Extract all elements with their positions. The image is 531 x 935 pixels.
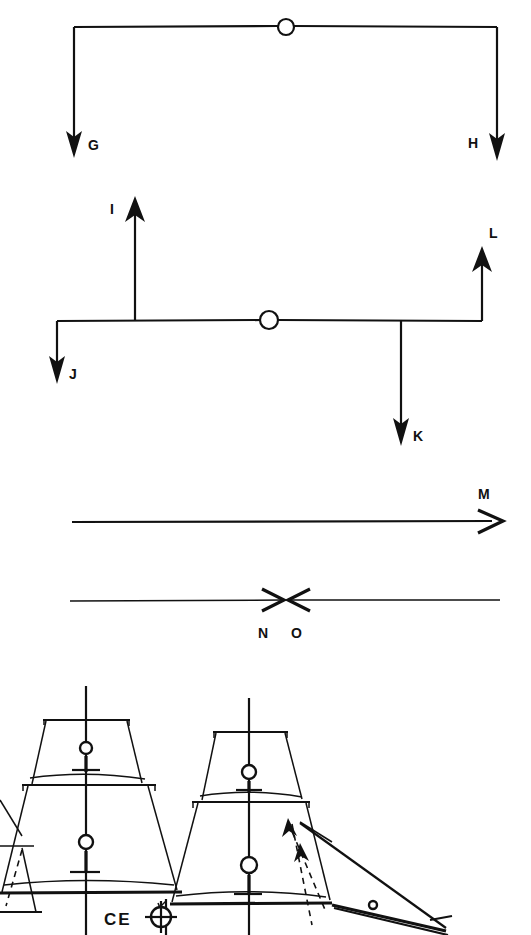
- ship-sail-plan: CE: [0, 686, 452, 935]
- label-l: L: [489, 225, 498, 241]
- label-g: G: [88, 137, 99, 153]
- foremast-sail-foot-upper: [200, 792, 302, 797]
- headsails-and-bowsprit: [282, 818, 452, 935]
- left-sail-edge-b: [22, 848, 36, 912]
- bowsprit: [332, 905, 446, 931]
- jib-leech: [300, 823, 446, 928]
- ce-label: CE: [104, 910, 132, 929]
- mainmast-hoop-upper: [80, 742, 92, 754]
- staysail-luff-arrow-a: [282, 818, 297, 837]
- mainmast-sail-upper-right: [127, 721, 142, 783]
- gh-beam-left: [74, 26, 278, 27]
- headsail-marker-circle: [369, 901, 377, 909]
- staysail-luff-dashed-inner: [292, 824, 312, 925]
- label-j: J: [69, 366, 77, 382]
- mainmast-sail-foot-upper: [30, 774, 145, 779]
- diagram-no: N O: [70, 589, 500, 641]
- diagram-m: M: [72, 486, 503, 533]
- label-h: H: [468, 135, 478, 151]
- label-k: K: [413, 428, 423, 444]
- foremast-sail-lower-left: [172, 803, 198, 902]
- mainmast-sail-upper-left: [32, 721, 46, 784]
- bowsprit-under: [334, 908, 448, 935]
- figure-canvas: G H I J K: [0, 0, 531, 935]
- left-sail-dash: [6, 850, 22, 906]
- ijkl-beam-left: [57, 320, 261, 321]
- ijkl-beam-right: [278, 320, 482, 321]
- ijkl-pivot-circle: [260, 311, 278, 329]
- figure-root: G H I J K: [0, 0, 531, 935]
- no-line-left: [70, 600, 283, 601]
- gh-pivot-circle: [278, 19, 294, 35]
- label-i: I: [110, 201, 114, 217]
- mainmast-yard-lower: [0, 892, 182, 893]
- label-o: O: [291, 625, 302, 641]
- mainmast-hoop-lower: [79, 835, 93, 849]
- foremast-sail-upper-right: [285, 733, 302, 799]
- jib-stay-upper: [300, 822, 332, 842]
- foremast-hoop-upper: [242, 765, 256, 779]
- diagram-gh: G H: [66, 19, 505, 161]
- label-n: N: [258, 625, 268, 641]
- label-m: M: [478, 486, 490, 502]
- left-sail-edge-a: [0, 800, 22, 836]
- mainmast-sail-lower-right: [148, 786, 177, 890]
- diagram-ijkl: I J K L: [49, 196, 498, 446]
- foremast-sail-lower-right: [306, 803, 330, 900]
- mast-mainmast: [0, 686, 182, 935]
- gh-beam-right: [294, 26, 497, 27]
- foremast-sail-upper-left: [202, 733, 216, 800]
- foremast-hoop-lower: [241, 857, 257, 873]
- m-arrow-shaft: [72, 521, 492, 522]
